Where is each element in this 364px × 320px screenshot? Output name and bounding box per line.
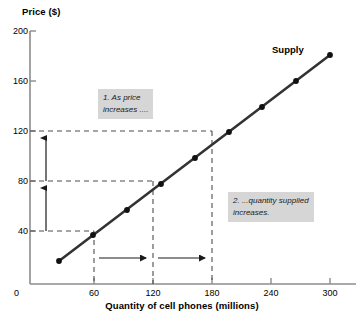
annotation-quantity-supplied-increases: 2. ...quantity supplied increases. <box>228 192 314 222</box>
axis-ticks <box>30 31 330 284</box>
supply-curve-figure: Price ($) Quantity of cell phones (milli… <box>0 0 364 320</box>
annotation-price-increases: 1. As price increases .... <box>98 89 153 119</box>
supply-series-label: Supply <box>272 44 304 55</box>
plot-area <box>0 0 364 320</box>
supply-curve <box>56 52 333 264</box>
